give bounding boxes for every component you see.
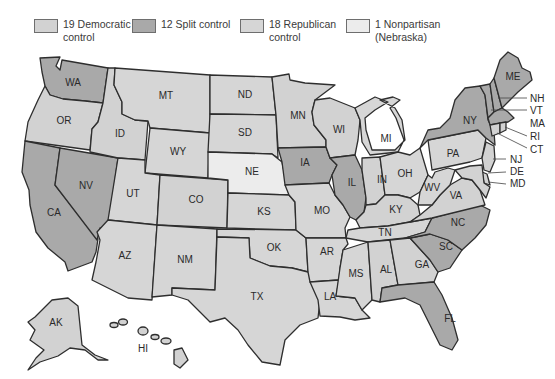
state-HI-big-island bbox=[174, 348, 188, 368]
label-NE: NE bbox=[245, 166, 259, 177]
label-AK: AK bbox=[49, 317, 63, 328]
state-AK bbox=[28, 298, 108, 370]
label-WY: WY bbox=[170, 146, 186, 157]
label-DE: DE bbox=[510, 166, 524, 177]
label-HI: HI bbox=[138, 343, 148, 354]
label-IN: IN bbox=[377, 174, 387, 185]
leader-DE bbox=[488, 172, 506, 173]
label-IL: IL bbox=[348, 177, 357, 188]
label-RI: RI bbox=[530, 131, 540, 142]
state-HI-island-1 bbox=[110, 323, 118, 328]
label-PA: PA bbox=[447, 148, 460, 159]
label-AR: AR bbox=[320, 246, 334, 257]
label-MN: MN bbox=[290, 110, 306, 121]
label-OR: OR bbox=[57, 115, 72, 126]
leader-CT bbox=[497, 133, 527, 148]
label-NM: NM bbox=[177, 254, 193, 265]
label-VA: VA bbox=[450, 190, 463, 201]
label-AL: AL bbox=[380, 264, 393, 275]
label-WA: WA bbox=[65, 77, 81, 88]
label-OK: OK bbox=[267, 242, 282, 253]
label-MS: MS bbox=[349, 268, 364, 279]
label-AZ: AZ bbox=[119, 250, 132, 261]
label-NY: NY bbox=[463, 115, 477, 126]
label-NC: NC bbox=[451, 217, 465, 228]
state-HI-island-3 bbox=[138, 327, 148, 335]
us-map: WA OR CA NV ID MT WY UT AZ CO NM ND SD N… bbox=[0, 0, 555, 379]
label-SD: SD bbox=[238, 127, 252, 138]
label-CO: CO bbox=[189, 194, 204, 205]
label-NJ: NJ bbox=[510, 154, 522, 165]
state-HI-island-4 bbox=[151, 335, 159, 340]
label-ND: ND bbox=[238, 89, 252, 100]
label-MA: MA bbox=[530, 118, 545, 129]
state-MI bbox=[355, 97, 405, 155]
state-RI bbox=[500, 122, 506, 133]
label-MI: MI bbox=[380, 133, 391, 144]
label-KY: KY bbox=[389, 204, 403, 215]
label-ID: ID bbox=[115, 128, 125, 139]
label-WV: WV bbox=[424, 182, 440, 193]
label-TN: TN bbox=[378, 227, 391, 238]
label-TX: TX bbox=[251, 291, 264, 302]
label-OH: OH bbox=[398, 168, 413, 179]
label-NV: NV bbox=[79, 180, 93, 191]
label-IA: IA bbox=[300, 157, 310, 168]
label-VT: VT bbox=[530, 105, 543, 116]
state-HI-island-5 bbox=[161, 338, 171, 344]
label-NH: NH bbox=[530, 93, 544, 104]
label-FL: FL bbox=[444, 313, 456, 324]
label-LA: LA bbox=[324, 291, 337, 302]
label-KS: KS bbox=[257, 206, 271, 217]
label-CA: CA bbox=[47, 207, 61, 218]
label-UT: UT bbox=[126, 188, 139, 199]
label-MT: MT bbox=[159, 90, 173, 101]
leader-MD bbox=[488, 182, 506, 184]
label-CT: CT bbox=[530, 144, 543, 155]
label-MD: MD bbox=[510, 178, 526, 189]
label-GA: GA bbox=[415, 259, 430, 270]
label-WI: WI bbox=[333, 124, 345, 135]
label-MO: MO bbox=[314, 205, 330, 216]
leader-RI bbox=[505, 127, 527, 136]
label-SC: SC bbox=[439, 241, 453, 252]
label-ME: ME bbox=[506, 71, 521, 82]
state-HI-island-2 bbox=[119, 319, 128, 325]
